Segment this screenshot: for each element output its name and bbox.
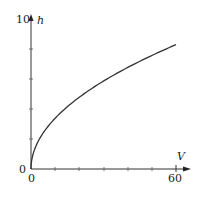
y-axis-name: h [37,14,44,27]
x-max-label: 60 [168,172,182,185]
origin-x-label: 0 [28,172,35,185]
chart: 10 h 0 0 V 60 [0,0,201,199]
y-max-label: 10 [16,13,30,26]
origin-y-label: 0 [19,163,26,176]
data-curve [31,45,176,169]
x-axis-name: V [177,150,186,163]
x-axis-arrow-icon [183,167,191,172]
